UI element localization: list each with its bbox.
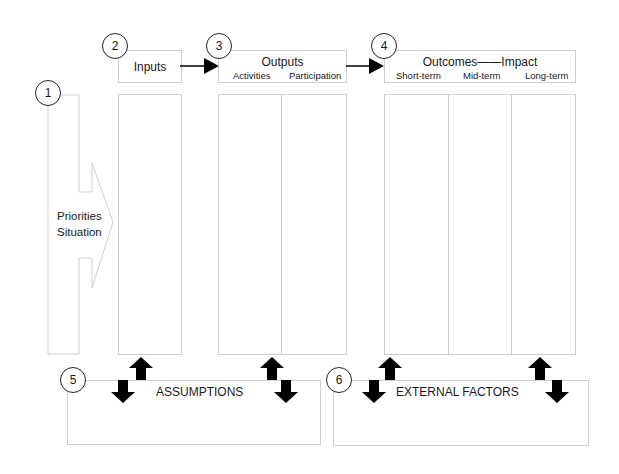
external-factors-title: EXTERNAL FACTORS — [396, 385, 519, 399]
inputs-header-box: Inputs — [118, 50, 182, 83]
activities-column — [218, 94, 282, 355]
outputs-title: Outputs — [219, 55, 346, 69]
priorities-label: Priorities — [57, 210, 102, 222]
long-term-column — [511, 94, 576, 355]
mid-term-column — [448, 94, 512, 355]
step-1-badge: 1 — [35, 80, 61, 106]
outputs-header-box: Outputs Activities Participation — [218, 50, 347, 83]
step-3-badge: 3 — [206, 33, 232, 59]
short-term-column — [384, 94, 449, 355]
step-6-badge: 6 — [326, 367, 352, 393]
step-2-badge: 2 — [102, 33, 128, 59]
participation-column — [281, 94, 347, 355]
mid-term-subheader: Mid-term — [463, 70, 500, 81]
activities-subheader: Activities — [233, 70, 270, 81]
step-4-badge: 4 — [371, 33, 397, 59]
inputs-title: Inputs — [119, 60, 181, 74]
assumptions-box: ASSUMPTIONS — [67, 380, 321, 445]
short-term-subheader: Short-term — [396, 70, 441, 81]
outcomes-header-box: Outcomes——Impact Short-term Mid-term Lon… — [384, 50, 576, 83]
inputs-column — [118, 94, 182, 355]
outcomes-title: Outcomes——Impact — [385, 55, 575, 69]
assumptions-title: ASSUMPTIONS — [156, 385, 243, 399]
long-term-subheader: Long-term — [525, 70, 568, 81]
participation-subheader: Participation — [289, 70, 341, 81]
situation-label: Situation — [57, 226, 102, 238]
step-5-badge: 5 — [60, 367, 86, 393]
external-factors-box: EXTERNAL FACTORS — [333, 380, 589, 446]
